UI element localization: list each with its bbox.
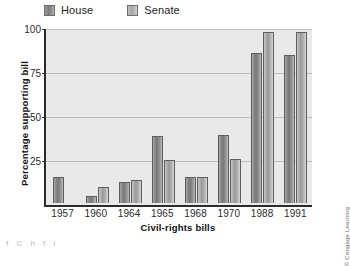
bar-group — [180, 29, 213, 203]
legend-label-house: House — [61, 4, 93, 16]
x-axis-title: Civil-rights bills — [42, 222, 314, 233]
x-axis-tick-label-1970: 1970 — [212, 208, 245, 219]
bar-senate-1965 — [164, 160, 175, 204]
bar-group — [81, 29, 114, 203]
legend-swatch-senate-icon — [127, 5, 138, 16]
page-bleed-text: f C h f l — [6, 239, 206, 248]
bar-group — [48, 29, 81, 203]
bar-group — [114, 29, 147, 203]
y-axis-tick-mark — [42, 117, 46, 118]
bars-layer — [48, 29, 312, 203]
bar-senate-1991 — [296, 32, 307, 203]
bar-group — [246, 29, 279, 203]
y-axis-tick-label: 75 — [30, 68, 41, 79]
y-axis-tick-mark — [42, 73, 46, 74]
y-axis-title: Percentage supporting bill — [19, 44, 30, 204]
x-axis-tick-labels: 19571960196419651968197019881991 — [46, 208, 312, 219]
bar-house-1991 — [284, 55, 295, 203]
bar-house-1970 — [218, 135, 229, 203]
chart-legend: House Senate — [44, 2, 180, 18]
bar-senate-1968 — [197, 177, 208, 203]
bar-senate-1960 — [98, 187, 109, 203]
bar-house-1965 — [152, 136, 163, 203]
bar-house-1960 — [86, 196, 97, 203]
x-axis-tick-label-1988: 1988 — [246, 208, 279, 219]
x-axis-tick-label-1968: 1968 — [179, 208, 212, 219]
y-axis-tick-label: 50 — [30, 112, 41, 123]
bar-group — [279, 29, 312, 203]
bar-senate-1988 — [263, 32, 274, 203]
x-axis-tick-label-1964: 1964 — [113, 208, 146, 219]
bar-group — [147, 29, 180, 203]
bar-house-1968 — [185, 177, 196, 203]
bar-senate-1970 — [230, 159, 241, 203]
copyright-credit: © Cengage Learning — [344, 207, 350, 266]
legend-swatch-house-icon — [44, 5, 55, 16]
y-axis-tick-label: 25 — [30, 156, 41, 167]
legend-label-senate: Senate — [144, 4, 179, 16]
bar-house-1957 — [53, 177, 64, 203]
bar-house-1964 — [119, 182, 130, 203]
x-axis-tick-label-1957: 1957 — [46, 208, 79, 219]
y-axis-tick-mark — [42, 161, 46, 162]
bar-house-1988 — [251, 53, 262, 203]
y-axis-tick-label: 100 — [24, 24, 41, 35]
x-axis-tick-label-1965: 1965 — [146, 208, 179, 219]
x-axis-tick-label-1960: 1960 — [79, 208, 112, 219]
legend-item-house: House — [44, 4, 93, 16]
bar-senate-1964 — [131, 180, 142, 203]
bar-group — [213, 29, 246, 203]
y-axis-tick-mark — [42, 29, 46, 30]
x-axis-tick-label-1991: 1991 — [279, 208, 312, 219]
plot-wrapper: 255075100 — [44, 29, 312, 207]
legend-item-senate: Senate — [127, 4, 179, 16]
plot-area: 255075100 — [44, 29, 312, 207]
